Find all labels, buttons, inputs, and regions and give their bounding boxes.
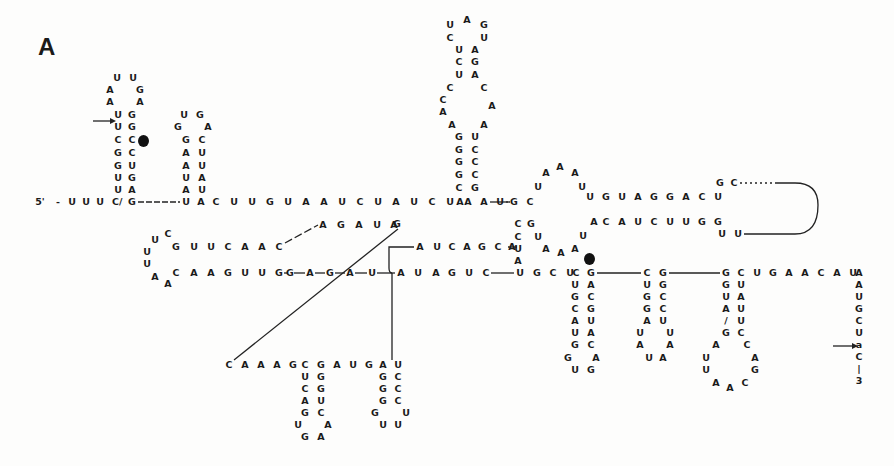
nucleotide: C: [493, 242, 503, 252]
nucleotide: G: [642, 304, 652, 314]
nucleotide: A: [750, 353, 760, 363]
nucleotide: G: [479, 20, 489, 30]
nucleotide: C: [548, 268, 558, 278]
nucleotide: U: [373, 197, 383, 207]
nucleotide: A: [431, 268, 441, 278]
nucleotide: G: [750, 365, 760, 375]
nucleotide: C: [740, 378, 750, 388]
nucleotide: A: [570, 244, 580, 254]
nucleotide: G: [378, 396, 388, 406]
nucleotide: A: [784, 268, 794, 278]
nucleotide: A: [305, 268, 315, 278]
nucleotide: A: [240, 242, 250, 252]
nucleotide: C: [127, 148, 137, 158]
nucleotide: C: [570, 304, 580, 314]
nucleotide: U: [633, 217, 643, 227]
nucleotide: C: [658, 292, 668, 302]
nucleotide: C: [816, 268, 826, 278]
nucleotide: U: [181, 173, 191, 183]
nucleotide: U: [515, 268, 525, 278]
nucleotide: U: [67, 197, 77, 207]
nucleotide: A: [462, 15, 472, 25]
nucleotide: A: [541, 168, 551, 178]
nucleotide: -: [53, 197, 63, 207]
nucleotide: G: [697, 217, 707, 227]
nucleotide: A: [642, 316, 652, 326]
nucleotide: A: [635, 340, 645, 350]
nucleotide: U: [454, 70, 464, 80]
nucleotide: U: [681, 217, 691, 227]
nucleotide: U: [150, 235, 160, 245]
nucleotide: G: [113, 161, 123, 171]
nucleotide: A: [135, 97, 145, 107]
nucleotide: A: [105, 97, 115, 107]
nucleotide: U: [570, 328, 580, 338]
nucleotide: C: [274, 242, 284, 252]
nucleotide: G: [127, 173, 137, 183]
nucleotide: U: [432, 242, 442, 252]
nucleotide: U: [300, 372, 310, 382]
nucleotide: A: [345, 268, 355, 278]
nucleotide: C: [355, 197, 365, 207]
nucleotide: A: [181, 185, 191, 195]
nucleotide: C: [481, 268, 491, 278]
nucleotide: G: [470, 57, 480, 67]
nucleotide: A: [272, 360, 282, 370]
nucleotide: G: [570, 292, 580, 302]
nucleotide: U: [367, 268, 377, 278]
nucleotide: A: [658, 353, 668, 363]
nucleotide: U: [533, 232, 543, 242]
nucleotide: A: [681, 192, 691, 202]
nucleotide: C: [697, 192, 707, 202]
nucleotide: G: [364, 360, 374, 370]
nucleotide: U: [372, 220, 382, 230]
nucleotide: C: [649, 217, 659, 227]
nucleotide: G: [454, 132, 464, 142]
nucleotide: U: [586, 316, 596, 326]
nucleotide: C: [445, 33, 455, 43]
nucleotide: U: [454, 45, 464, 55]
nucleotide: G: [715, 178, 725, 188]
nucleotide: G: [586, 304, 596, 314]
nucleotide: U: [854, 292, 864, 302]
nucleotide: G: [392, 219, 402, 229]
nucleotide: U: [283, 197, 293, 207]
nucleotide: U: [409, 197, 419, 207]
nucleotide: U: [348, 360, 358, 370]
nucleotide: A: [257, 242, 267, 252]
nucleotide: /: [721, 316, 731, 326]
nucleotide: C: [586, 340, 596, 350]
nucleotide: U: [95, 197, 105, 207]
nucleotide: C: [163, 229, 173, 239]
nucleotide: U: [81, 197, 91, 207]
nucleotide: C: [224, 360, 234, 370]
nucleotide: G: [325, 268, 335, 278]
nucleotide: C: [438, 95, 448, 105]
nucleotide: C: [658, 304, 668, 314]
nucleotide: A: [323, 420, 333, 430]
nucleotide: C: [642, 268, 652, 278]
nucleotide: G: [195, 110, 205, 120]
nucleotide: U: [570, 365, 580, 375]
nucleotide: U: [247, 197, 257, 207]
nucleotide: U: [127, 161, 137, 171]
nucleotide: G: [370, 408, 380, 418]
nucleotide: A: [197, 173, 207, 183]
nucleotide: U: [393, 360, 403, 370]
nucleotide: A: [391, 197, 401, 207]
nucleotide: U: [128, 73, 138, 83]
nucleotide: C: [447, 242, 457, 252]
nucleotide: G: [288, 360, 298, 370]
nucleotide: U: [479, 33, 489, 43]
nucleotide: A: [203, 122, 213, 132]
nucleotide: G: [532, 268, 542, 278]
nucleotide: G: [135, 85, 145, 95]
nucleotide: G: [316, 384, 326, 394]
nucleotide: U: [665, 217, 675, 227]
nucleotide: G: [509, 197, 519, 207]
nucleotide: U: [142, 247, 152, 257]
nucleotide: G: [447, 268, 457, 278]
nucleotide: A: [854, 268, 864, 278]
nucleotide: C: [513, 219, 523, 229]
nucleotide: U: [578, 231, 588, 241]
